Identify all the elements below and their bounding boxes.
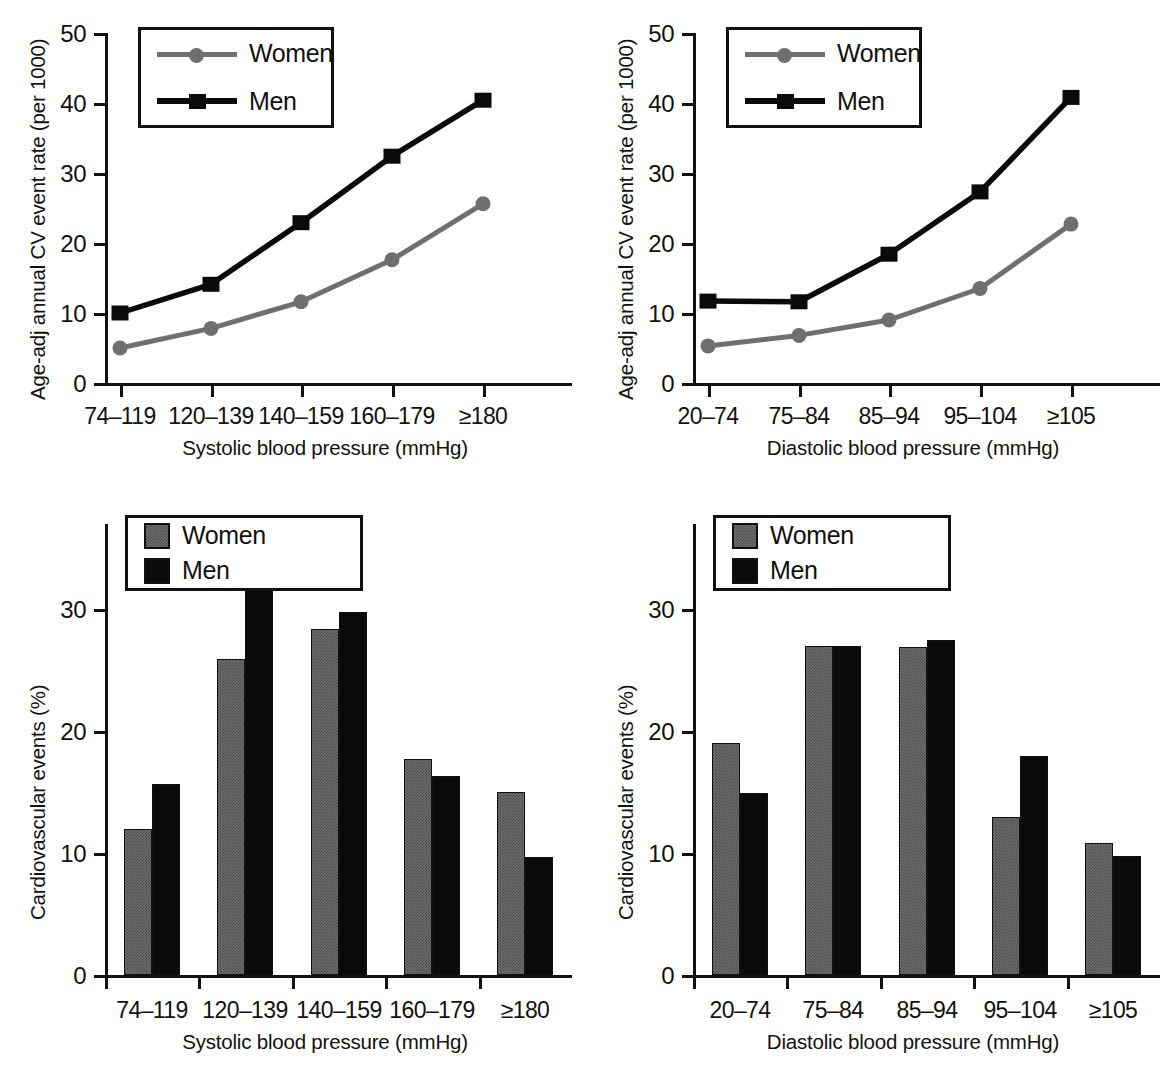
x-axis-tick xyxy=(693,978,696,989)
data-point-men-4 xyxy=(1063,90,1080,105)
x-axis-tick-label: ≥105 xyxy=(1048,999,1176,1022)
caption-fragment xyxy=(0,1075,1176,1091)
legend-item-men: Men xyxy=(716,553,948,588)
x-axis-line xyxy=(693,975,1160,978)
y-axis-tick-label: 30 xyxy=(0,598,86,622)
bar-men-3 xyxy=(432,776,460,975)
legend: Women Men xyxy=(713,515,951,591)
legend-label-men: Men xyxy=(770,558,817,583)
x-axis-tick xyxy=(385,978,388,989)
x-axis-label: Systolic blood pressure (mmHg) xyxy=(70,1030,580,1054)
data-point-women-1 xyxy=(792,328,807,343)
data-point-women-0 xyxy=(113,341,128,356)
y-axis-tick xyxy=(94,609,105,612)
panel-diastolic-bar: Cardiovascular events (%) 010203020–7475… xyxy=(588,490,1176,1070)
y-axis-tick xyxy=(682,975,693,978)
y-axis-tick-label: 0 xyxy=(588,964,674,988)
data-point-women-2 xyxy=(294,294,309,309)
bar-women-3 xyxy=(404,759,432,975)
y-axis-tick xyxy=(682,853,693,856)
y-axis-line xyxy=(693,524,696,978)
line-path-men xyxy=(708,97,1071,301)
panel-systolic-line: Age-adj annual CV event rate (per 1000) … xyxy=(0,0,588,470)
bar-women-3 xyxy=(992,817,1020,975)
x-axis-tick xyxy=(880,978,883,989)
y-axis-tick xyxy=(94,853,105,856)
bar-men-0 xyxy=(152,784,180,975)
data-point-women-3 xyxy=(385,252,400,267)
y-axis-tick-label: 20 xyxy=(0,720,86,744)
legend: Women Men xyxy=(138,27,334,128)
line-path-men xyxy=(120,100,483,313)
panel-diastolic-line: Age-adj annual CV event rate (per 1000) … xyxy=(588,0,1176,470)
x-axis-tick xyxy=(105,978,108,989)
bar-women-4 xyxy=(1085,843,1113,975)
legend-label-men: Men xyxy=(837,89,884,114)
data-point-men-0 xyxy=(700,294,717,309)
men-bar-swatch-icon xyxy=(144,558,170,584)
legend-item-men: Men xyxy=(141,78,331,126)
legend-item-women: Women xyxy=(141,30,331,78)
legend: Women Men xyxy=(726,27,922,128)
women-line-swatch-icon xyxy=(157,46,237,62)
x-axis-tick xyxy=(973,978,976,989)
data-point-men-3 xyxy=(972,184,989,199)
women-line-swatch-icon xyxy=(745,46,825,62)
bar-women-4 xyxy=(497,792,525,975)
x-axis-tick xyxy=(198,978,201,989)
men-line-swatch-icon xyxy=(745,93,825,109)
data-point-men-2 xyxy=(293,215,310,230)
y-axis-tick xyxy=(682,731,693,734)
y-axis-tick-label: 0 xyxy=(0,964,86,988)
bar-women-0 xyxy=(712,743,740,975)
x-axis-tick xyxy=(292,978,295,989)
women-bar-swatch-icon xyxy=(732,523,758,549)
data-point-women-4 xyxy=(476,196,491,211)
x-axis-tick xyxy=(786,978,789,989)
legend-item-men: Men xyxy=(729,78,919,126)
bar-women-2 xyxy=(311,629,339,975)
legend-label-women: Women xyxy=(182,523,266,548)
men-bar-swatch-icon xyxy=(732,558,758,584)
men-line-swatch-icon xyxy=(157,93,237,109)
legend-item-women: Women xyxy=(729,30,919,78)
x-axis-label: Diastolic blood pressure (mmHg) xyxy=(658,436,1168,460)
panel-systolic-bar: Cardiovascular events (%) 010203074–1191… xyxy=(0,490,588,1070)
y-axis-tick-label: 10 xyxy=(588,842,674,866)
data-point-men-4 xyxy=(475,93,492,108)
y-axis-tick-label: 10 xyxy=(0,842,86,866)
bar-men-0 xyxy=(740,793,768,975)
x-axis-line xyxy=(105,975,572,978)
bar-men-1 xyxy=(833,646,861,975)
x-axis-tick-label: ≥180 xyxy=(460,999,590,1022)
legend: Women Men xyxy=(125,515,363,591)
y-axis-tick-label: 20 xyxy=(588,720,674,744)
data-point-women-0 xyxy=(701,338,716,353)
legend-item-women: Women xyxy=(716,518,948,553)
x-axis-tick xyxy=(1067,978,1070,989)
y-axis-line xyxy=(105,524,108,978)
legend-label-women: Women xyxy=(837,41,921,66)
legend-item-men: Men xyxy=(128,553,360,588)
y-axis-tick xyxy=(682,609,693,612)
x-axis-label: Diastolic blood pressure (mmHg) xyxy=(658,1030,1168,1054)
y-axis-tick xyxy=(94,731,105,734)
legend-label-women: Women xyxy=(770,523,854,548)
data-point-women-1 xyxy=(204,321,219,336)
legend-label-women: Women xyxy=(249,41,333,66)
bar-women-1 xyxy=(805,646,833,975)
bar-women-2 xyxy=(899,647,927,975)
bar-men-3 xyxy=(1020,756,1048,975)
data-point-men-0 xyxy=(112,306,129,321)
legend-item-women: Women xyxy=(128,518,360,553)
women-bar-swatch-icon xyxy=(144,523,170,549)
data-point-women-2 xyxy=(882,313,897,328)
bar-women-1 xyxy=(217,659,245,975)
data-point-women-4 xyxy=(1064,217,1079,232)
line-path-women xyxy=(708,224,1071,346)
y-axis-tick-label: 30 xyxy=(588,598,674,622)
data-point-men-2 xyxy=(881,247,898,262)
data-point-men-1 xyxy=(791,294,808,309)
data-point-men-1 xyxy=(203,277,220,292)
x-axis-tick xyxy=(479,978,482,989)
